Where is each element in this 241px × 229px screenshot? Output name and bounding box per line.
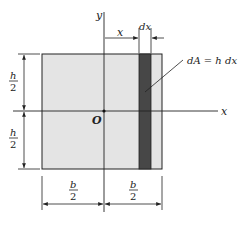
da-annotation-label: dA = h dx — [187, 55, 237, 66]
b-left-denominator: 2 — [70, 191, 76, 202]
diagram-canvas: y x O x dx dA = h dx h 2 h 2 b 2 b 2 — [0, 0, 241, 229]
b-left-numerator: b — [70, 179, 76, 190]
x-distance-label: x — [117, 26, 124, 39]
b-right-numerator: b — [130, 179, 136, 190]
y-axis-label: y — [95, 9, 103, 22]
b-right-denominator: 2 — [130, 191, 136, 202]
dx-label: dx — [139, 21, 151, 32]
area-element-strip — [139, 54, 151, 169]
origin-label: O — [92, 114, 102, 127]
origin-point — [102, 109, 105, 112]
h-top-numerator: h — [10, 70, 16, 81]
x-axis-label: x — [221, 105, 228, 118]
h-bottom-numerator: h — [10, 127, 16, 138]
h-bottom-denominator: 2 — [10, 139, 16, 150]
diagram-stage: y x O x dx dA = h dx h 2 h 2 b 2 b 2 — [0, 0, 241, 229]
h-top-denominator: 2 — [10, 82, 16, 93]
